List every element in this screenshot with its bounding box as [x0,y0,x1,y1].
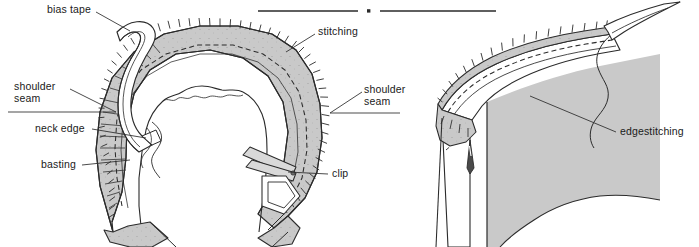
leader-shoulder-seam-right-diag [330,92,362,113]
garment-inner-wavy-edge [139,86,267,236]
leader-stitching [286,34,315,52]
lower-left-fabric-tail [104,222,176,247]
tape-end-flap [604,2,680,40]
label-clip: clip [332,168,348,180]
label-neck-edge: neck edge [35,123,85,135]
label-shoulder-seam-left: shoulder seam [14,80,55,104]
inner-edge-ripple [163,95,243,101]
label-shoulder-seam-right: shoulder seam [364,83,405,107]
label-basting: basting [41,159,76,171]
left-diagram-group [96,18,329,247]
section-divider [258,9,496,12]
label-stitching: stitching [318,26,358,38]
leader-bias-tape [96,12,130,31]
label-bias-tape: bias tape [47,4,91,16]
label-edgestitching: edgestitching [620,126,684,138]
illustration-canvas: bias tape stitching shoulder seam should… [0,0,699,247]
